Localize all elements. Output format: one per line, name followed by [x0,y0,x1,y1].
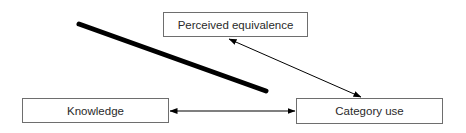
node-label: Knowledge [67,105,124,117]
diagram-canvas: Perceived equivalence Knowledge Category… [0,0,466,133]
node-label: Category use [335,105,403,117]
node-label: Perceived equivalence [178,19,294,31]
node-perceived-equivalence: Perceived equivalence [163,12,308,37]
node-category-use: Category use [296,98,443,124]
node-knowledge: Knowledge [22,98,169,123]
arrow-perceived-equivalence-category-use [229,39,361,97]
